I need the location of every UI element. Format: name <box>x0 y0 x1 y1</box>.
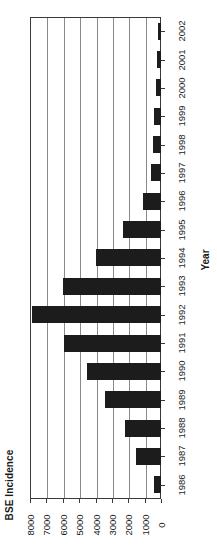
category-tick-2001: 2001 <box>161 45 197 73</box>
category-tick-label: 1991 <box>176 332 187 353</box>
tick-mark <box>161 485 165 486</box>
category-tick-label: 1997 <box>176 162 187 183</box>
category-tick-1989: 1989 <box>161 386 197 414</box>
category-tick-1991: 1991 <box>161 329 197 357</box>
value-tick-label: 0 <box>156 522 167 527</box>
value-tick-7000: 7000 <box>39 499 53 545</box>
category-tick-1987: 1987 <box>161 442 197 470</box>
tick-mark <box>63 499 64 503</box>
category-tick-1995: 1995 <box>161 215 197 243</box>
x-axis-title: Year <box>196 235 214 285</box>
tick-mark <box>46 499 47 503</box>
tick-mark <box>30 499 31 503</box>
bar-1995 <box>123 221 161 238</box>
category-tick-label: 1988 <box>176 418 187 439</box>
value-tick-label: 1000 <box>139 514 150 535</box>
category-tick-label: 1998 <box>176 134 187 155</box>
category-tick-label: 1996 <box>176 191 187 212</box>
category-tick-1988: 1988 <box>161 414 197 442</box>
bse-incidence-bar-chart: BSE Incidence Year 800070006000500040003… <box>0 0 217 549</box>
tick-mark <box>161 60 165 61</box>
tick-mark <box>161 116 165 117</box>
category-tick-1990: 1990 <box>161 357 197 385</box>
category-tick-label: 1992 <box>176 304 187 325</box>
category-tick-label: 2002 <box>176 21 187 42</box>
x-axis-title-label: Year <box>200 249 211 270</box>
y-axis-title: BSE Incidence <box>0 430 18 540</box>
value-tick-2000: 2000 <box>121 499 135 545</box>
value-tick-1000: 1000 <box>138 499 152 545</box>
value-tick-3000: 3000 <box>105 499 119 545</box>
bar-1989 <box>105 391 161 408</box>
bar-1987 <box>136 448 161 465</box>
category-tick-label: 1990 <box>176 361 187 382</box>
value-tick-label: 2000 <box>123 514 134 535</box>
category-tick-1999: 1999 <box>161 102 197 130</box>
value-tick-label: 3000 <box>106 514 117 535</box>
category-tick-1998: 1998 <box>161 130 197 158</box>
tick-mark <box>96 499 97 503</box>
value-tick-label: 7000 <box>41 514 52 535</box>
category-tick-label: 1986 <box>176 474 187 495</box>
category-tick-label: 1995 <box>176 219 187 240</box>
value-tick-5000: 5000 <box>72 499 86 545</box>
category-tick-label: 1999 <box>176 106 187 127</box>
tick-mark <box>161 201 165 202</box>
value-tick-label: 6000 <box>57 514 68 535</box>
value-tick-0: 0 <box>154 499 168 545</box>
category-tick-1992: 1992 <box>161 301 197 329</box>
bar-1999 <box>154 108 161 125</box>
bar-1993 <box>63 278 161 295</box>
bar-1992 <box>32 306 161 323</box>
tick-mark <box>112 499 113 503</box>
tick-mark <box>161 343 165 344</box>
category-axis-ticks: 1986198719881989199019911992199319941995… <box>161 17 197 499</box>
value-tick-label: 8000 <box>25 514 36 535</box>
category-tick-1997: 1997 <box>161 159 197 187</box>
category-tick-1994: 1994 <box>161 244 197 272</box>
tick-mark <box>161 400 165 401</box>
category-tick-1986: 1986 <box>161 471 197 499</box>
category-tick-label: 2001 <box>176 49 187 70</box>
category-tick-1996: 1996 <box>161 187 197 215</box>
tick-mark <box>161 31 165 32</box>
tick-mark <box>161 173 165 174</box>
category-tick-label: 1989 <box>176 389 187 410</box>
y-axis-title-label: BSE Incidence <box>4 450 15 521</box>
category-tick-label: 1994 <box>176 247 187 268</box>
tick-mark <box>161 145 165 146</box>
tick-mark <box>161 88 165 89</box>
tick-mark <box>128 499 129 503</box>
category-tick-1993: 1993 <box>161 272 197 300</box>
bar-1994 <box>96 249 162 266</box>
bar-1988 <box>125 420 161 437</box>
tick-mark <box>161 499 162 503</box>
tick-mark <box>145 499 146 503</box>
tick-mark <box>161 258 165 259</box>
value-tick-label: 5000 <box>74 514 85 535</box>
tick-mark <box>79 499 80 503</box>
tick-mark <box>161 230 165 231</box>
bar-1990 <box>87 363 161 380</box>
category-tick-label: 1987 <box>176 446 187 467</box>
bar-1997 <box>151 164 161 181</box>
bar-1996 <box>143 193 161 210</box>
bar-1998 <box>153 136 161 153</box>
value-axis-ticks: 800070006000500040003000200010000 <box>30 499 161 549</box>
tick-mark <box>161 428 165 429</box>
category-tick-label: 1993 <box>176 276 187 297</box>
category-tick-2002: 2002 <box>161 17 197 45</box>
bar-1986 <box>154 476 161 493</box>
category-tick-2000: 2000 <box>161 74 197 102</box>
tick-mark <box>161 315 165 316</box>
bar-1991 <box>64 335 161 352</box>
tick-mark <box>161 456 165 457</box>
category-tick-label: 2000 <box>176 77 187 98</box>
tick-mark <box>161 371 165 372</box>
value-tick-label: 4000 <box>90 514 101 535</box>
tick-mark <box>161 286 165 287</box>
value-tick-4000: 4000 <box>89 499 103 545</box>
bars-layer <box>30 17 161 499</box>
value-tick-6000: 6000 <box>56 499 70 545</box>
value-tick-8000: 8000 <box>23 499 37 545</box>
